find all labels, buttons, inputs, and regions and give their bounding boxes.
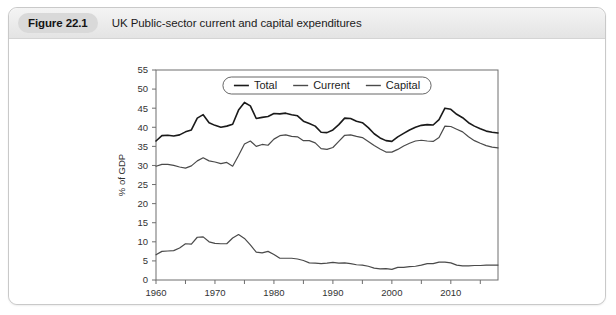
x-tick-label: 1990 [322, 287, 343, 298]
y-tick-label: 55 [137, 64, 148, 75]
y-tick-label: 5 [143, 255, 148, 266]
figure-header: Figure 22.1 UK Public-sector current and… [9, 8, 605, 39]
x-tick-label: 1970 [204, 287, 225, 298]
chart-legend: TotalCurrentCapital [223, 77, 431, 94]
figure-body: % of GDP 0510152025303540455055 19601970… [9, 39, 605, 304]
plot-border [156, 70, 498, 280]
y-tick-label: 35 [137, 141, 148, 152]
y-axis-title-group: % of GDP [116, 154, 127, 196]
y-tick-label: 40 [137, 122, 148, 133]
y-axis-title: % of GDP [116, 154, 127, 196]
y-tick-label: 50 [137, 83, 148, 94]
y-tick-label: 30 [137, 160, 148, 171]
plot-frame [156, 70, 498, 280]
x-axis-ticks: 196019701980199020002010 [145, 280, 480, 298]
legend-label-capital: Capital [386, 79, 420, 91]
y-tick-label: 25 [137, 179, 148, 190]
series-line-total [156, 102, 498, 141]
x-tick-label: 2000 [381, 287, 402, 298]
legend-label-total: Total [254, 79, 277, 91]
x-tick-label: 1960 [145, 287, 166, 298]
legend-label-current: Current [313, 79, 350, 91]
line-chart: % of GDP 0510152025303540455055 19601970… [9, 39, 607, 305]
y-tick-label: 20 [137, 198, 148, 209]
y-tick-label: 45 [137, 103, 148, 114]
y-tick-label: 10 [137, 236, 148, 247]
x-tick-label: 1980 [263, 287, 284, 298]
x-tick-label: 2010 [440, 287, 461, 298]
figure-number-badge: Figure 22.1 [18, 13, 98, 33]
series-line-capital [156, 235, 498, 270]
figure-card: Figure 22.1 UK Public-sector current and… [8, 7, 606, 305]
y-tick-label: 0 [143, 274, 148, 285]
figure-caption: UK Public-sector current and capital exp… [112, 17, 362, 29]
y-axis-ticks: 0510152025303540455055 [137, 64, 156, 285]
data-series-group [156, 102, 498, 269]
y-tick-label: 15 [137, 217, 148, 228]
